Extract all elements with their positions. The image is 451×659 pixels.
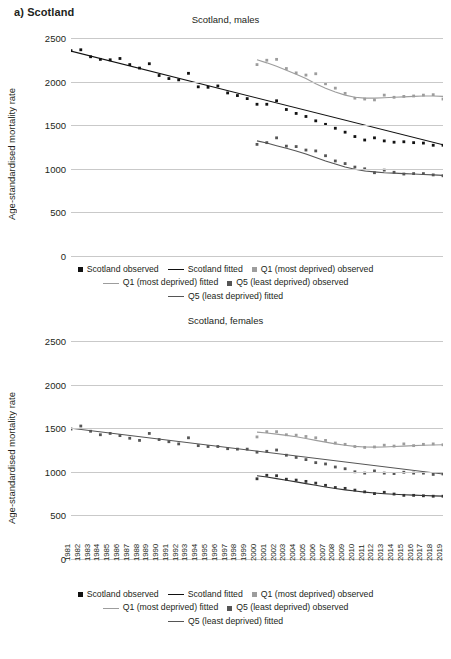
y-axis-tick: 1500 xyxy=(22,120,66,131)
data-point xyxy=(128,437,131,440)
data-point xyxy=(119,57,122,60)
chart-males: Scotland, males Age-standardised mortali… xyxy=(0,8,451,308)
legend-item: Scotland observed xyxy=(78,588,159,601)
data-point xyxy=(187,72,190,75)
legend-line-swatch xyxy=(168,621,184,622)
data-point xyxy=(314,436,317,439)
series-line xyxy=(257,141,443,175)
y-axis-tick: 0 xyxy=(22,554,66,565)
gridline xyxy=(71,169,443,170)
data-point xyxy=(402,140,405,143)
data-point xyxy=(305,149,308,152)
data-point xyxy=(383,140,386,143)
data-point xyxy=(334,466,337,469)
legend-item-label: Scotland observed xyxy=(87,588,159,601)
x-axis-tick: 2008 xyxy=(327,544,336,561)
x-axis-tick: 1983 xyxy=(82,544,91,561)
data-point xyxy=(295,479,298,482)
data-point xyxy=(314,482,317,485)
legend-item: Scotland observed xyxy=(78,263,159,276)
data-point xyxy=(334,160,337,163)
legend-square-swatch xyxy=(78,592,83,597)
x-axis-tick: 2000 xyxy=(249,544,258,561)
legend-item-label: Scotland observed xyxy=(87,263,159,276)
data-point xyxy=(256,477,259,480)
x-axis-tick: 1991 xyxy=(160,544,169,561)
data-point xyxy=(324,154,327,157)
y-axis-tick: 2500 xyxy=(22,336,66,347)
data-point xyxy=(305,74,308,77)
x-axis-tick: 2018 xyxy=(425,544,434,561)
legend-item: Q5 (least deprived) fitted xyxy=(168,615,283,628)
data-point xyxy=(314,119,317,122)
x-axis-tick: 2001 xyxy=(258,544,267,561)
data-point xyxy=(256,436,259,439)
data-point xyxy=(314,461,317,464)
x-axis-tick: 2002 xyxy=(268,544,277,561)
x-axis-tick: 2009 xyxy=(337,544,346,561)
data-point xyxy=(265,59,268,62)
x-axis-tick: 2007 xyxy=(317,544,326,561)
legend-item-label: Q5 (least deprived) observed xyxy=(236,276,348,289)
gridline xyxy=(71,428,443,429)
gridline xyxy=(71,38,443,39)
gridline xyxy=(71,385,443,386)
data-point xyxy=(275,449,278,452)
x-axis-tick: 1992 xyxy=(170,544,179,561)
data-point xyxy=(324,463,327,466)
y-axis-tick: 500 xyxy=(22,510,66,521)
legend-row: Q5 (least deprived) fitted xyxy=(0,290,451,303)
data-point xyxy=(295,112,298,115)
gridline xyxy=(71,125,443,126)
legend-item-label: Q1 (most deprived) fitted xyxy=(123,601,219,614)
x-axis-tick: 1987 xyxy=(121,544,130,561)
data-point xyxy=(226,92,229,95)
data-point xyxy=(79,48,82,51)
legend-square-swatch xyxy=(227,281,232,286)
legend-item-label: Q5 (least deprived) fitted xyxy=(188,290,283,303)
legend-item-label: Scotland fitted xyxy=(188,263,243,276)
x-axis-tick: 1993 xyxy=(180,544,189,561)
data-point xyxy=(265,474,268,477)
gridline xyxy=(71,82,443,83)
x-axis-tick: 1988 xyxy=(131,544,140,561)
data-point xyxy=(256,143,259,146)
legend-row: Q1 (most deprived) fittedQ5 (least depri… xyxy=(0,601,451,614)
y-axis-tick: 500 xyxy=(22,207,66,218)
data-point xyxy=(275,58,278,61)
data-point xyxy=(344,162,347,165)
plot-area-males xyxy=(71,38,443,256)
figure-page: a) Scotland Scotland, males Age-standard… xyxy=(0,0,451,659)
x-axis-tick: 2004 xyxy=(288,544,297,561)
y-axis-tick: 1500 xyxy=(22,423,66,434)
x-axis-tick: 1982 xyxy=(72,544,81,561)
legend-item: Q1 (most deprived) fitted xyxy=(103,601,219,614)
data-point xyxy=(442,98,443,101)
y-axis-tick: 2000 xyxy=(22,76,66,87)
legend-line-swatch xyxy=(168,269,184,270)
x-axis-tick: 2016 xyxy=(405,544,414,561)
data-point xyxy=(412,141,415,144)
data-point xyxy=(305,435,308,438)
data-point xyxy=(177,443,180,446)
legend-line-swatch xyxy=(103,283,119,284)
data-point xyxy=(305,458,308,461)
series-line xyxy=(257,432,443,447)
legend-line-swatch xyxy=(168,296,184,297)
data-point xyxy=(353,135,356,138)
data-point xyxy=(344,467,347,470)
legend-item: Q5 (least deprived) observed xyxy=(227,276,348,289)
data-point xyxy=(79,425,82,428)
data-point xyxy=(393,141,396,144)
y-axis-tick: 0 xyxy=(22,251,66,262)
series-points xyxy=(256,58,443,101)
x-axis-tick: 1999 xyxy=(239,544,248,561)
series-line xyxy=(257,60,443,98)
gridline xyxy=(71,341,443,342)
legend-square-swatch xyxy=(252,592,257,597)
data-point xyxy=(138,439,141,442)
y-axis-tick: 2000 xyxy=(22,379,66,390)
x-axis-tick: 1985 xyxy=(102,544,111,561)
legend-line-swatch xyxy=(168,594,184,595)
legend-row: Q1 (most deprived) fittedQ5 (least depri… xyxy=(0,276,451,289)
